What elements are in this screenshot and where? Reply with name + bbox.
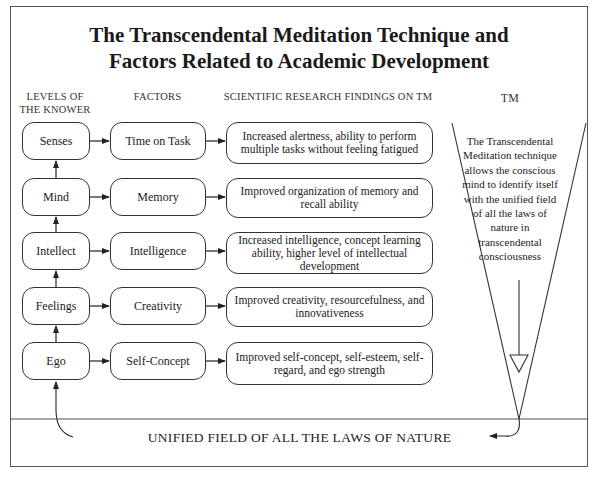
arrow-right-icon <box>206 141 225 361</box>
hollow-arrow-down-icon <box>510 280 528 372</box>
arrow-right-icon <box>90 141 109 361</box>
unified-field-label: UNIFIED FIELD OF ALL THE LAWS OF NATURE <box>0 430 599 446</box>
curved-arrow-icon <box>56 382 73 437</box>
tm-description: The Transcendental Meditation technique … <box>462 134 558 264</box>
